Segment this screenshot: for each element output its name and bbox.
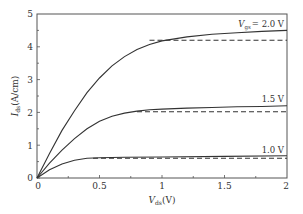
curves (37, 30, 287, 178)
x-axis-label: Vds(V) (149, 195, 176, 206)
x-tick-label: 2 (283, 181, 289, 191)
x-tick-label: 1 (159, 181, 165, 191)
y-tick-label: 0 (27, 173, 33, 183)
y-tick-label: 1 (27, 141, 33, 151)
annotation-vgs-1-0: 1.0 V (262, 145, 285, 155)
iv-characteristics-chart: 0 1 2 3 4 5 0 0.5 1 1.5 2 Vds(V) Ids(A/c… (0, 0, 303, 214)
annotation-vgs-2-0: Vgs= 2.0 V (238, 19, 285, 31)
x-tick-label: 0 (35, 181, 41, 191)
plot-frame (37, 14, 287, 178)
y-axis-label: Ids(A/cm) (10, 76, 21, 118)
y-tick-labels: 0 1 2 3 4 5 (27, 9, 33, 183)
y-tick-label: 5 (27, 9, 33, 19)
x-tick-labels: 0 0.5 1 1.5 2 (35, 181, 289, 191)
curve-vgs-1-5 (37, 106, 287, 178)
x-tick-label: 1.5 (217, 181, 232, 191)
y-tick-label: 2 (27, 108, 33, 118)
curve-vgs-1-0 (37, 156, 287, 178)
y-tick-label: 4 (27, 42, 33, 52)
x-tick-label: 0.5 (92, 181, 107, 191)
annotation-vgs-1-5: 1.5 V (262, 94, 285, 104)
y-tick-label: 3 (27, 75, 33, 85)
